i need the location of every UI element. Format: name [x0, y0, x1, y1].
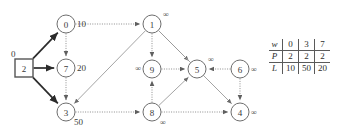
node-distance-label: 50 [74, 117, 84, 127]
node-id-label: 2 [22, 64, 27, 74]
table-row-header: w [269, 39, 283, 51]
graph-edge [33, 33, 58, 59]
table-cell: 3 [299, 39, 315, 51]
table-cell: 7 [315, 39, 331, 51]
node-distance-label: 0 [11, 49, 16, 59]
graph-node-4[interactable]: 4 [231, 103, 249, 121]
node-id-label: 7 [64, 64, 69, 74]
table-row: P222 [269, 51, 330, 63]
figure-canvas: 2073195864 0102050∞∞∞∞∞∞ w037P222L105020 [0, 0, 340, 137]
graph-node-0[interactable]: 0 [57, 15, 75, 33]
node-id-label: 4 [238, 108, 243, 118]
node-distance-label: 10 [77, 19, 87, 29]
node-distance-label: ∞ [163, 10, 169, 19]
table-row: L105020 [269, 63, 330, 75]
graph-node-5[interactable]: 5 [188, 60, 206, 78]
node-distance-label: ∞ [135, 64, 141, 73]
table-row-header: L [269, 63, 283, 75]
node-id-label: 5 [195, 65, 200, 75]
table-row: w037 [269, 39, 330, 51]
graph-node-6[interactable]: 6 [231, 60, 249, 78]
table-row-header: P [269, 51, 283, 63]
graph-node-8[interactable]: 8 [143, 103, 161, 121]
graph-node-9[interactable]: 9 [143, 60, 161, 78]
graph-edge [33, 77, 58, 103]
table-cell: 0 [283, 39, 299, 51]
node-id-label: 0 [64, 20, 69, 30]
table-cell: 20 [315, 63, 331, 75]
table-cell: 2 [283, 51, 299, 63]
node-id-label: 9 [150, 65, 155, 75]
node-distance-label: ∞ [160, 118, 166, 127]
node-distance-label: ∞ [251, 108, 257, 117]
state-table-panel: w037P222L105020 [269, 39, 330, 74]
table-cell: 2 [315, 51, 331, 63]
node-distance-label: 20 [77, 63, 87, 73]
table-cell: 2 [299, 51, 315, 63]
node-id-label: 6 [238, 65, 243, 75]
table-cell: 10 [283, 63, 299, 75]
graph-node-3[interactable]: 3 [57, 103, 75, 121]
graph-node-1[interactable]: 1 [143, 15, 161, 33]
node-id-label: 1 [150, 20, 155, 30]
state-table: w037P222L105020 [269, 39, 330, 74]
node-distance-label: ∞ [251, 65, 257, 74]
graph-edge [159, 77, 189, 105]
node-id-label: 8 [150, 108, 155, 118]
node-distance-label: ∞ [208, 55, 214, 64]
graph-node-7[interactable]: 7 [57, 59, 75, 77]
table-cell: 50 [299, 63, 315, 75]
graph-node-2[interactable]: 2 [15, 59, 33, 77]
node-id-label: 3 [64, 108, 69, 118]
